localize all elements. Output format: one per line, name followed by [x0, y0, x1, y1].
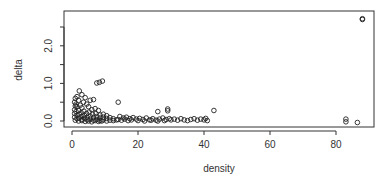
y-axis-label: delta: [13, 59, 24, 81]
data-point: [83, 95, 88, 100]
plot-frame: [64, 11, 374, 127]
x-tick-label: 80: [330, 139, 342, 150]
scatter-chart: 0.01.02.0 020406080 density delta: [0, 0, 390, 188]
x-tick-label: 20: [132, 139, 144, 150]
y-axis: 0.01.02.0: [43, 27, 64, 128]
x-tick-label: 40: [198, 139, 210, 150]
x-axis-label: density: [203, 163, 235, 174]
data-point: [116, 100, 121, 105]
data-point: [212, 108, 217, 113]
data-point: [91, 97, 96, 102]
y-tick-label: 2.0: [43, 38, 54, 52]
data-point: [355, 120, 360, 125]
x-tick-label: 0: [69, 139, 75, 150]
y-tick-label: 1.0: [43, 76, 54, 90]
x-tick-label: 60: [264, 139, 276, 150]
data-point: [156, 109, 161, 114]
data-points: [72, 16, 364, 124]
data-point: [100, 79, 105, 84]
x-axis: 020406080: [69, 131, 342, 150]
y-tick-label: 0.0: [43, 114, 54, 128]
